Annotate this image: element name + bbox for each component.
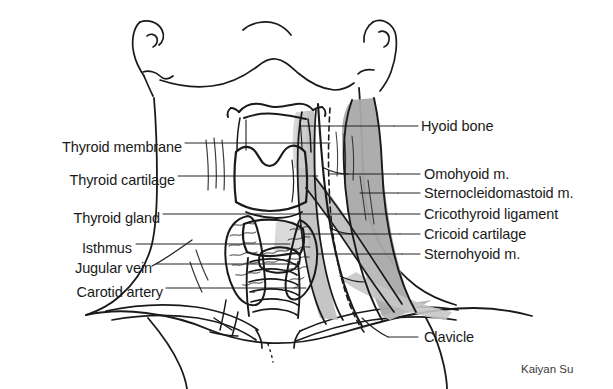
cricothyroid-ligament-shape bbox=[246, 212, 302, 218]
label-hyoid-bone-text: Hyoid bone bbox=[421, 118, 493, 134]
label-omohyoid-m-text: Omohyoid m. bbox=[424, 166, 509, 182]
label-carotid-artery-text: Carotid artery bbox=[77, 284, 163, 300]
label-thyroid-cartilage-text: Thyroid cartilage bbox=[70, 172, 176, 188]
left-neck-hatching bbox=[190, 138, 224, 292]
head-outline bbox=[133, 20, 397, 96]
label-clavicle-text: Clavicle bbox=[424, 329, 474, 345]
label-thyroid-membrane-text: Thyroid membrane bbox=[62, 139, 182, 155]
label-thyroid-cartilage: Thyroid cartilage bbox=[0, 173, 175, 188]
label-sternohyoid-m-text: Sternohyoid m. bbox=[424, 246, 520, 262]
label-jugular-vein: Jugular vein bbox=[0, 261, 152, 276]
label-cricothyroid-ligament-text: Cricothyroid ligament bbox=[424, 206, 558, 222]
label-sternocleidomastoid-m: Sternocleidomastoid m. bbox=[424, 186, 573, 201]
label-jugular-vein-text: Jugular vein bbox=[75, 260, 152, 276]
label-sternohyoid-m: Sternohyoid m. bbox=[424, 247, 520, 262]
figure-canvas: Thyroid membrane Thyroid cartilage Thyro… bbox=[0, 0, 613, 389]
label-thyroid-membrane: Thyroid membrane bbox=[0, 140, 182, 155]
label-sternocleidomastoid-m-text: Sternocleidomastoid m. bbox=[424, 185, 573, 201]
label-isthmus: Isthmus bbox=[0, 241, 132, 256]
shoulder-outline bbox=[86, 308, 532, 389]
artist-credit: Kaiyan Su bbox=[521, 364, 573, 376]
label-clavicle: Clavicle bbox=[424, 330, 474, 345]
label-thyroid-gland-text: Thyroid gland bbox=[73, 210, 160, 226]
label-carotid-artery: Carotid artery bbox=[0, 285, 163, 300]
label-hyoid-bone: Hyoid bone bbox=[421, 119, 493, 134]
label-cricoid-cartilage-text: Cricoid cartilage bbox=[424, 226, 526, 242]
label-omohyoid-m: Omohyoid m. bbox=[424, 167, 509, 182]
label-thyroid-gland: Thyroid gland bbox=[0, 211, 160, 226]
label-cricothyroid-ligament: Cricothyroid ligament bbox=[424, 207, 558, 222]
label-isthmus-text: Isthmus bbox=[82, 240, 132, 256]
label-cricoid-cartilage: Cricoid cartilage bbox=[424, 227, 526, 242]
lower-neck-structures bbox=[210, 300, 238, 336]
artist-credit-text: Kaiyan Su bbox=[521, 363, 573, 375]
